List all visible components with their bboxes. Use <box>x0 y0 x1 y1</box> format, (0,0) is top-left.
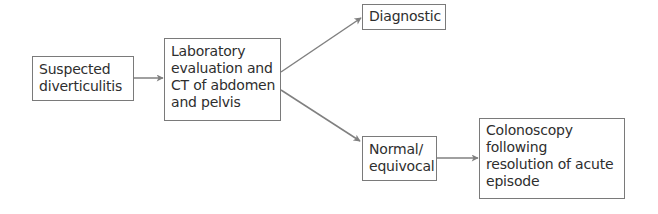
node-text-line: diverticulitis <box>39 78 127 95</box>
node-text-line: and pelvis <box>171 94 274 111</box>
node-normal-equivocal: Normal/ equivocal <box>362 136 437 181</box>
node-colonoscopy: Colonoscopy following resolution of acut… <box>479 118 625 199</box>
node-text-line: following <box>486 139 618 156</box>
node-text-line: Laboratory <box>171 43 274 60</box>
node-laboratory-evaluation-ct: Laboratory evaluation and CT of abdomen … <box>164 38 281 121</box>
arrow-lab-ct-to-diagnostic <box>281 18 361 72</box>
node-text-line: Diagnostic <box>369 8 439 25</box>
node-text-line: equivocal <box>369 158 430 175</box>
node-text-line: Suspected <box>39 61 127 78</box>
node-text-line: resolution of acute <box>486 156 618 173</box>
node-text-line: evaluation and <box>171 60 274 77</box>
node-text-line: Colonoscopy <box>486 122 618 139</box>
node-suspected-diverticulitis: Suspected diverticulitis <box>32 56 134 101</box>
node-text-line: Normal/ <box>369 141 430 158</box>
node-diagnostic: Diagnostic <box>362 4 446 30</box>
node-text-line: episode <box>486 173 618 190</box>
node-text-line: CT of abdomen <box>171 77 274 94</box>
arrow-lab-ct-to-normal <box>281 90 360 141</box>
